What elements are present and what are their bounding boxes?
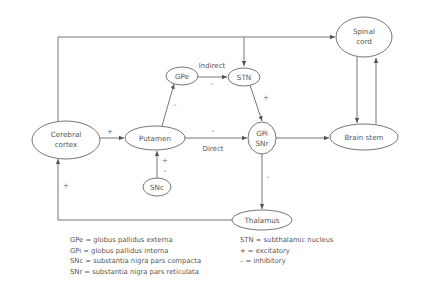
direct-pathway-label: Direct xyxy=(203,145,224,153)
node-spinal-cord: Spinal cord xyxy=(336,17,392,57)
node-gpi-snr: GPi SNr xyxy=(248,122,276,154)
legend-item-gpe: GPe = globus pallidus externa xyxy=(70,235,201,246)
brain-stem-label: Brain stem xyxy=(344,133,383,142)
diagram-canvas: Spinal cord Cerebral cortex Putamen GPe … xyxy=(0,0,421,290)
legend-item-excitatory: + = excitatory xyxy=(240,246,334,257)
legend-item-gpi: GPi = globus pallidus interna xyxy=(70,246,201,257)
putamen-label: Putamen xyxy=(139,134,171,143)
node-cerebral-cortex: Cerebral cortex xyxy=(32,121,100,159)
edge-stn-gpi xyxy=(250,85,262,121)
legend-item-snr: SNr = substantia nigra pars reticulata xyxy=(70,267,201,278)
cerebral-cortex-label-2: cortex xyxy=(55,140,78,149)
node-brain-stem: Brain stem xyxy=(330,124,398,150)
node-snc: SNc xyxy=(143,178,171,196)
sign-snc-minus: – xyxy=(163,167,167,175)
node-thalamus: Thalamus xyxy=(232,210,292,230)
legend-key: STN = subthalamic nucleus + = excitatory… xyxy=(240,235,334,267)
node-putamen: Putamen xyxy=(125,126,185,150)
stn-label: STN xyxy=(237,73,251,82)
legend-item-snc: SNc = substantia nigra pars compacta xyxy=(70,256,201,267)
gpi-label: GPi xyxy=(256,129,268,138)
cerebral-cortex-label-1: Cerebral xyxy=(51,130,82,139)
sign-putamen-gpe: – xyxy=(173,101,177,109)
node-gpe: GPe xyxy=(166,67,198,85)
indirect-pathway-label: Indirect xyxy=(199,62,226,70)
sign-gpe-stn: – xyxy=(210,80,214,88)
sign-gpi-thalamus: – xyxy=(266,173,270,181)
legend-abbreviations: GPe = globus pallidus externa GPi = glob… xyxy=(70,235,201,277)
sign-snc-plus: + xyxy=(162,157,168,165)
spinal-cord-label-1: Spinal xyxy=(353,27,375,36)
spinal-cord-label-2: cord xyxy=(356,37,372,46)
snc-label: SNc xyxy=(150,183,164,192)
node-stn: STN xyxy=(228,68,260,86)
sign-putamen-gpi: – xyxy=(211,127,215,135)
sign-thalamus-cortex: + xyxy=(63,182,69,190)
legend-item-stn: STN = subthalamic nucleus xyxy=(240,235,334,246)
snr-label: SNr xyxy=(256,139,269,148)
thalamus-label: Thalamus xyxy=(243,216,279,225)
gpe-label: GPe xyxy=(175,72,190,81)
edge-putamen-gpe xyxy=(162,84,174,126)
sign-stn-gpi: + xyxy=(263,94,269,102)
legend-item-inhibitory: – = inhibitory xyxy=(240,256,334,267)
sign-cortex-putamen: + xyxy=(107,128,113,136)
circuit-diagram: Spinal cord Cerebral cortex Putamen GPe … xyxy=(0,0,421,290)
